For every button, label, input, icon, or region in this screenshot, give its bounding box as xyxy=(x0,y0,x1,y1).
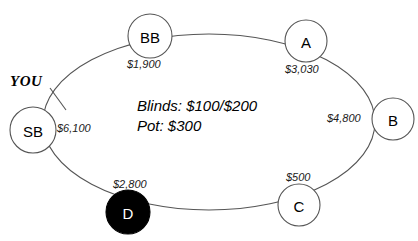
seat-bb-stack: $1,900 xyxy=(127,58,161,70)
seat-c-stack: $500 xyxy=(286,171,310,183)
seat-a-label: A xyxy=(301,34,311,51)
seat-d-stack: $2,800 xyxy=(113,178,147,190)
seat-sb-label: SB xyxy=(23,123,43,140)
center-blinds-text: Blinds: $100/$200 xyxy=(137,96,257,116)
seat-d-label: D xyxy=(123,205,134,222)
seat-b-stack: $4,800 xyxy=(327,112,361,124)
seat-bb-label: BB xyxy=(140,29,160,46)
poker-table-diagram: BB A B C D SB YOU $1,900 $3,030 $4,800 $… xyxy=(0,0,418,241)
table-ellipse xyxy=(43,34,375,210)
center-pot-text: Pot: $300 xyxy=(137,116,201,136)
seat-c-label: C xyxy=(294,198,305,215)
hero-you-marker: YOU xyxy=(10,73,42,90)
seat-b-label: B xyxy=(388,112,398,129)
seat-sb-stack: $6,100 xyxy=(57,122,91,134)
seat-a-stack: $3,030 xyxy=(285,63,319,75)
